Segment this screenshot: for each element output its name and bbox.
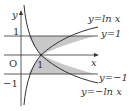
x-axis-label: x	[91, 58, 97, 68]
y-axis-arrow-icon	[19, 10, 23, 15]
y-axis-label: y	[12, 10, 18, 20]
tick-y-1: 1	[13, 27, 19, 37]
tick-y-minus-1: −1	[3, 79, 18, 89]
label-y-minus-1: y=−1	[99, 73, 128, 83]
label-y-1: y=1	[101, 29, 121, 39]
label-y-neg-ln-x: y=−ln x	[81, 87, 122, 97]
label-y-ln-x: y=ln x	[88, 14, 121, 24]
origin-label: O	[9, 59, 17, 69]
intersection-point	[40, 54, 42, 56]
tick-x-1: 1	[37, 60, 43, 70]
